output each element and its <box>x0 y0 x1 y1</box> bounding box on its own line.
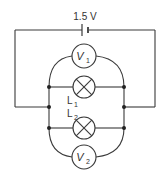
voltmeter-v2: V 2 <box>72 145 96 169</box>
lamp-l2-icon <box>73 117 95 139</box>
junction-dots <box>47 85 126 130</box>
svg-text:2: 2 <box>86 158 90 165</box>
svg-text:1: 1 <box>86 57 90 64</box>
battery-label: 1.5 V <box>73 11 97 22</box>
svg-text:1: 1 <box>74 101 78 108</box>
svg-text:L: L <box>67 108 73 119</box>
circuit-diagram: 1.5 V V 1 L 1 L 2 <box>0 0 167 177</box>
lamp-l2-label: L 2 <box>67 108 78 121</box>
svg-text:V: V <box>76 151 85 163</box>
voltmeter-v2-wiring <box>49 128 124 157</box>
battery-icon <box>82 24 88 36</box>
lamp-l1-icon <box>73 76 95 98</box>
svg-text:L: L <box>67 95 73 106</box>
voltmeter-v1: V 1 <box>72 44 96 68</box>
lamp-l1-label: L 1 <box>67 95 78 108</box>
svg-text:V: V <box>76 50 85 62</box>
